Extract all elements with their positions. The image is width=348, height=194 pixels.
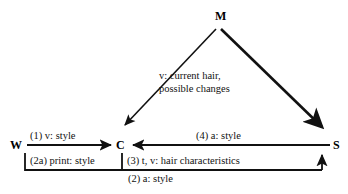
node-m[interactable]: M [215, 10, 226, 22]
diagram-canvas: M W C S (1) v: style (4) a: style (2a) p… [0, 0, 348, 194]
edge-m-to-s [221, 29, 322, 127]
node-c[interactable]: C [116, 139, 125, 151]
annotation-line-1: v: current hair, [159, 70, 230, 83]
edge-label-c-to-w: (2a) print: style [30, 155, 95, 168]
annotation-m-messages: v: current hair, possible changes [159, 70, 230, 95]
edge-label-w-to-c: (1) v: style [30, 130, 76, 143]
edge-label-c-to-s: (3) t, v: hair characteristics [127, 155, 240, 168]
node-s[interactable]: S [333, 139, 340, 151]
edge-label-w-to-s: (2) a: style [128, 173, 173, 186]
node-w[interactable]: W [10, 139, 22, 151]
annotation-line-2: possible changes [159, 83, 230, 96]
edge-label-s-to-c: (4) a: style [196, 130, 241, 143]
